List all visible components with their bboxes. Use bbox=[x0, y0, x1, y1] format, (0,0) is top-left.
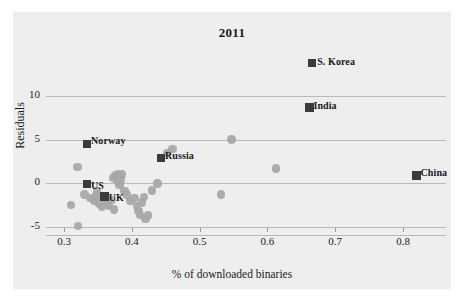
x-tick-label: 0.8 bbox=[386, 235, 420, 247]
x-tick-mark bbox=[267, 228, 268, 232]
x-axis-title: % of downloaded binaries bbox=[0, 268, 464, 280]
plot-area: -505100.30.40.50.60.70.8S. KoreaIndiaChi… bbox=[46, 40, 446, 235]
x-tick-label: 0.7 bbox=[318, 235, 352, 247]
y-axis-title: Residuals bbox=[13, 71, 28, 181]
data-point-label: Norway bbox=[91, 135, 125, 146]
data-point-label: UK bbox=[109, 192, 124, 203]
chart-title: 2011 bbox=[0, 25, 464, 41]
data-point bbox=[217, 190, 225, 198]
data-point-label: S. Korea bbox=[317, 56, 355, 67]
data-point bbox=[67, 201, 75, 209]
highlighted-data-point bbox=[83, 180, 92, 189]
x-tick-label: 0.6 bbox=[250, 235, 284, 247]
x-tick-mark bbox=[132, 228, 133, 232]
highlighted-data-point bbox=[83, 140, 92, 149]
highlighted-data-point bbox=[305, 103, 314, 112]
data-point bbox=[272, 164, 280, 172]
gridline-y bbox=[46, 183, 446, 184]
highlighted-data-point bbox=[157, 154, 166, 163]
data-point bbox=[227, 135, 235, 143]
gridline-y bbox=[46, 96, 446, 97]
x-tick-label: 0.5 bbox=[183, 235, 217, 247]
data-point-label: China bbox=[421, 167, 448, 178]
highlighted-data-point bbox=[100, 192, 109, 201]
gridline-y bbox=[46, 227, 446, 228]
data-point bbox=[153, 179, 161, 187]
data-point bbox=[144, 211, 152, 219]
y-tick-label: -5 bbox=[14, 219, 40, 231]
data-point-label: India bbox=[313, 100, 336, 111]
x-tick-label: 0.3 bbox=[47, 235, 81, 247]
x-tick-mark bbox=[200, 228, 201, 232]
data-point bbox=[73, 163, 81, 171]
data-point-label: US bbox=[91, 180, 104, 191]
data-point-label: Russia bbox=[165, 150, 194, 161]
x-tick-mark bbox=[64, 228, 65, 232]
data-point bbox=[110, 205, 118, 213]
x-tick-label: 0.4 bbox=[115, 235, 149, 247]
data-point bbox=[74, 222, 82, 230]
chart-figure: 2011 -505100.30.40.50.60.70.8S. KoreaInd… bbox=[0, 0, 464, 301]
highlighted-data-point bbox=[412, 171, 421, 180]
x-tick-mark bbox=[335, 228, 336, 232]
data-point bbox=[118, 170, 126, 178]
x-tick-mark bbox=[403, 228, 404, 232]
data-point bbox=[140, 193, 148, 201]
highlighted-data-point bbox=[308, 59, 317, 68]
